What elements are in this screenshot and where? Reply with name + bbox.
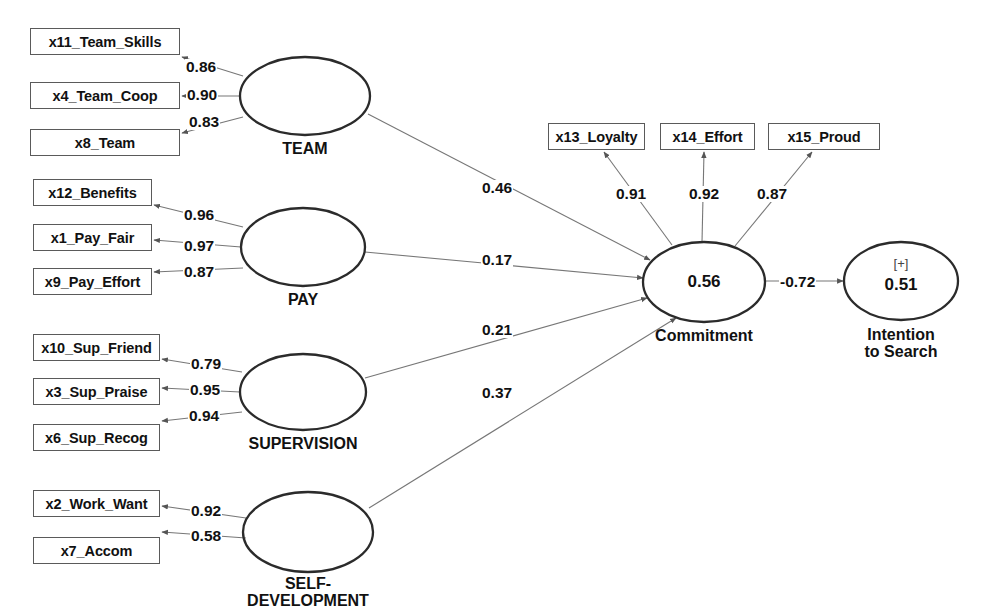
loading-label-sup-x6: 0.94 <box>188 408 220 424</box>
latent-label-commitment: Commitment <box>639 327 769 344</box>
indicator-label: x7_Accom <box>61 543 133 559</box>
intention-sign-marker: [+] <box>851 256 951 271</box>
indicator-box-x15[interactable]: x15_Proud <box>768 123 880 150</box>
latent-label-team: TEAM <box>255 140 355 157</box>
indicator-box-x1[interactable]: x1_Pay_Fair <box>33 224 152 251</box>
loading-label-team-x11: 0.86 <box>185 59 217 75</box>
indicator-label: x13_Loyalty <box>556 129 638 145</box>
intention-r2-value: 0.51 <box>851 275 951 295</box>
indicator-label: x2_Work_Want <box>46 496 148 512</box>
indicator-label: x6_Sup_Recog <box>45 430 148 446</box>
indicator-box-x11[interactable]: x11_Team_Skills <box>30 28 180 55</box>
ellipse-team <box>240 57 370 135</box>
indicator-box-x9[interactable]: x9_Pay_Effort <box>33 268 152 295</box>
commitment-r2-value: 0.56 <box>654 272 754 292</box>
loading-label-sup-x3: 0.95 <box>189 382 221 398</box>
ellipse-self-development <box>243 492 373 572</box>
loading-label-team-x4: 0.90 <box>186 87 218 103</box>
indicator-box-x3[interactable]: x3_Sup_Praise <box>33 378 160 405</box>
path-label-self-development-commitment: 0.37 <box>481 385 513 401</box>
indicator-label: x11_Team_Skills <box>49 34 162 50</box>
path-sup-commitment <box>365 298 647 378</box>
loading-label-self-x7: 0.58 <box>190 528 222 544</box>
indicator-box-x2[interactable]: x2_Work_Want <box>33 490 160 517</box>
indicator-label: x8_Team <box>75 135 135 151</box>
path-label-team-commitment: 0.46 <box>481 180 513 196</box>
ellipse-supervision <box>240 354 366 430</box>
indicator-label: x3_Sup_Praise <box>46 384 148 400</box>
path-label-pay-commitment: 0.17 <box>481 252 513 268</box>
latent-label-self-development: SELF- DEVELOPMENT <box>213 575 403 610</box>
latent-label-intention: Intention to Search <box>831 326 971 361</box>
structural-arrows <box>365 114 843 508</box>
indicator-box-x4[interactable]: x4_Team_Coop <box>30 82 180 109</box>
indicator-box-x14[interactable]: x14_Effort <box>660 123 755 150</box>
indicator-box-x8[interactable]: x8_Team <box>30 129 180 156</box>
path-label-supervision-commitment: 0.21 <box>481 322 513 338</box>
indicator-label: x14_Effort <box>673 129 743 145</box>
loading-label-pay-x1: 0.97 <box>183 238 215 254</box>
indicator-box-x13[interactable]: x13_Loyalty <box>548 123 645 150</box>
latent-label-supervision: SUPERVISION <box>228 435 378 452</box>
indicator-box-x6[interactable]: x6_Sup_Recog <box>33 424 160 451</box>
loading-label-commitment-x14: 0.92 <box>688 186 720 202</box>
indicator-label: x4_Team_Coop <box>53 88 158 104</box>
indicator-box-x10[interactable]: x10_Sup_Friend <box>33 334 160 361</box>
path-label-commitment-intention: -0.72 <box>779 274 816 290</box>
latent-label-pay: PAY <box>253 291 353 308</box>
indicator-label: x10_Sup_Friend <box>41 340 152 356</box>
loading-label-pay-x12: 0.96 <box>183 207 215 223</box>
sem-diagram: x11_Team_Skills x4_Team_Coop x8_Team x12… <box>0 0 982 613</box>
indicator-box-x12[interactable]: x12_Benefits <box>33 179 152 206</box>
loading-label-sup-x10: 0.79 <box>190 356 222 372</box>
loading-label-commitment-x13: 0.91 <box>615 186 647 202</box>
loading-label-team-x8: 0.83 <box>188 114 220 130</box>
indicator-label: x12_Benefits <box>48 185 136 201</box>
loading-label-self-x2: 0.92 <box>190 503 222 519</box>
indicator-box-x7[interactable]: x7_Accom <box>33 537 160 564</box>
loading-label-pay-x9: 0.87 <box>183 264 215 280</box>
indicator-label: x15_Proud <box>787 129 860 145</box>
ellipse-pay <box>241 208 365 286</box>
indicator-label: x1_Pay_Fair <box>51 230 135 246</box>
path-self-commitment <box>369 318 676 508</box>
loading-label-commitment-x15: 0.87 <box>756 186 788 202</box>
indicator-label: x9_Pay_Effort <box>45 274 140 290</box>
